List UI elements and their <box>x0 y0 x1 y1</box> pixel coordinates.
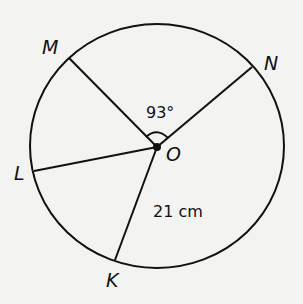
label-n: N <box>264 52 278 74</box>
angle-arc <box>146 132 168 138</box>
label-o: O <box>166 143 181 165</box>
center-point <box>153 143 161 151</box>
radius-ol <box>34 147 157 171</box>
label-l: L <box>14 162 25 184</box>
angle-label: 93° <box>146 103 174 122</box>
radius-label: 21 cm <box>153 202 203 221</box>
diagram-canvas: M N L K O 93° 21 cm <box>0 0 303 304</box>
radius-ok <box>115 147 157 260</box>
circle-diagram: M N L K O 93° 21 cm <box>0 0 303 304</box>
label-m: M <box>42 36 58 58</box>
label-k: K <box>106 269 120 291</box>
radius-om <box>69 58 157 147</box>
